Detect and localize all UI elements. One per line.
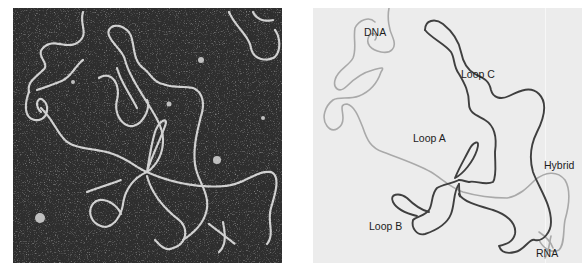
label-dna: DNA <box>364 27 386 38</box>
electron-micrograph-panel <box>13 8 282 263</box>
label-loop-c: Loop C <box>461 69 495 80</box>
label-hybrid: Hybrid <box>544 160 574 171</box>
micrograph-image <box>13 8 282 263</box>
r-loop-diagram <box>313 8 582 263</box>
label-loop-a: Loop A <box>413 133 446 144</box>
interpretive-drawing-panel: DNA Loop C Loop A Hybrid Loop B RNA <box>313 8 582 263</box>
label-rna: RNA <box>536 248 558 259</box>
label-loop-b: Loop B <box>369 221 402 232</box>
